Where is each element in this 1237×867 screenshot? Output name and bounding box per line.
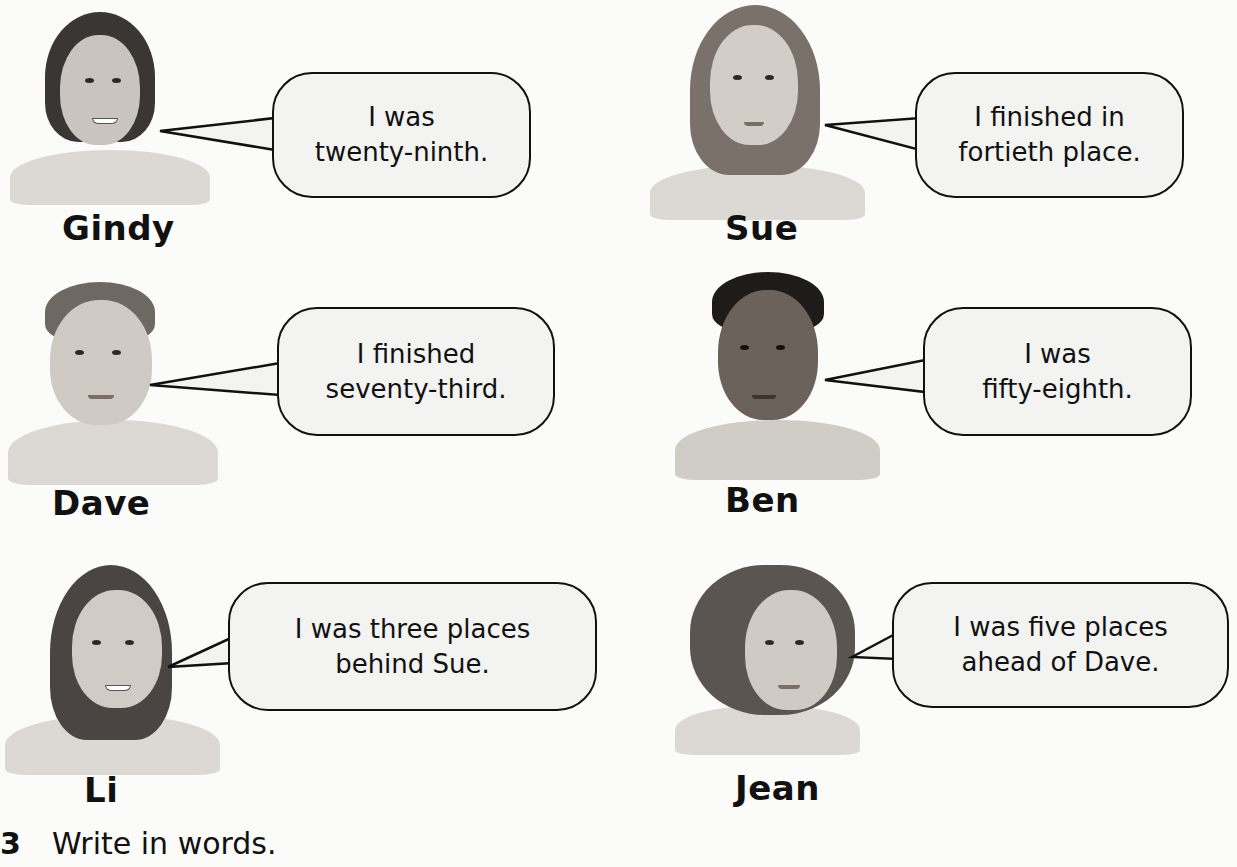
speech-bubble-tail xyxy=(825,105,925,165)
name-label: Gindy xyxy=(62,208,175,248)
question-prompt: 3Write in words. xyxy=(0,826,277,861)
name-label: Ben xyxy=(725,480,800,520)
name-label: Dave xyxy=(52,483,150,523)
speech-bubble: I was five placesahead of Dave. xyxy=(892,582,1229,708)
name-label: Jean xyxy=(735,768,820,808)
speech-bubble: I finishedseventy-third. xyxy=(277,307,555,436)
question-number: 3 xyxy=(0,826,52,861)
speech-bubble: I wastwenty-ninth. xyxy=(272,72,531,198)
speech-bubble: I wasfifty-eighth. xyxy=(923,307,1192,436)
speech-bubble-tail xyxy=(150,355,285,415)
speech-bubble: I finished infortieth place. xyxy=(915,72,1184,198)
name-label: Sue xyxy=(725,208,798,248)
speech-bubble-tail xyxy=(825,350,930,410)
speech-bubble: I was three placesbehind Sue. xyxy=(228,582,597,711)
question-text: Write in words. xyxy=(52,826,277,861)
name-label: Li xyxy=(84,770,118,810)
speech-bubble-tail xyxy=(160,100,280,160)
